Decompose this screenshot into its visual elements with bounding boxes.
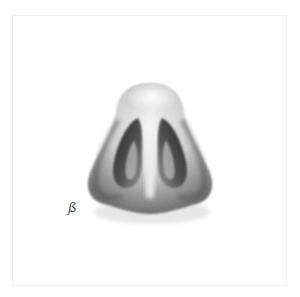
nose-illustration <box>0 0 300 297</box>
artist-signature: ß <box>68 200 77 215</box>
columella <box>145 110 156 198</box>
